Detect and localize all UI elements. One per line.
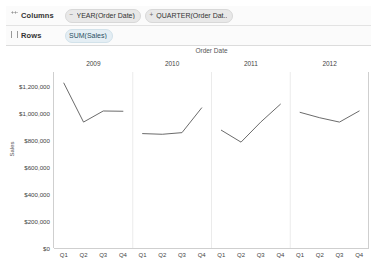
pill-label: QUARTER(Order Dat.. [156, 12, 227, 19]
plot-area [54, 72, 369, 248]
quarter-tick-label[interactable]: Q4 [113, 249, 133, 261]
line-chart-svg [54, 72, 369, 248]
pill-year-order-date[interactable]: − YEAR(Order Date) [65, 9, 141, 23]
quarter-group-2009: Q1Q2Q3Q4 [54, 249, 133, 261]
quarter-tick-label[interactable]: Q1 [54, 249, 74, 261]
rows-shelf-label: Rows [21, 31, 65, 40]
year-header[interactable]: 2009 [54, 58, 133, 70]
year-header[interactable]: 2010 [133, 58, 212, 70]
quarter-tick-label[interactable]: Q3 [93, 249, 113, 261]
sales-line-2012[interactable] [300, 111, 359, 122]
quarter-tick-label[interactable]: Q2 [231, 249, 251, 261]
quarter-tick-label[interactable]: Q3 [330, 249, 350, 261]
quarter-group-2012: Q1Q2Q3Q4 [290, 249, 369, 261]
sales-line-2009[interactable] [64, 83, 123, 122]
pill-label: SUM(Sales) [69, 32, 107, 39]
y-axis-tick-label: $800,000 [24, 136, 50, 143]
y-axis-tick-label: $200,000 [24, 217, 50, 224]
quarter-tick-label[interactable]: Q2 [310, 249, 330, 261]
columns-shelf[interactable]: Columns − YEAR(Order Date) + QUARTER(Ord… [6, 6, 371, 26]
plus-icon[interactable]: + [149, 12, 154, 19]
y-axis-title: Sales [9, 129, 15, 169]
quarter-tick-label[interactable]: Q1 [133, 249, 153, 261]
y-axis[interactable]: Sales $1,200,000$1,000,000$800,000$600,0… [6, 72, 54, 248]
y-axis-tick-label: $1,200,000 [19, 82, 50, 89]
pill-label: YEAR(Order Date) [77, 12, 135, 19]
quarter-tick-label[interactable]: Q3 [172, 249, 192, 261]
quarter-group-2010: Q1Q2Q3Q4 [133, 249, 212, 261]
pill-quarter-order-date[interactable]: + QUARTER(Order Dat.. [145, 9, 234, 23]
y-axis-tick-label: $400,000 [24, 190, 50, 197]
quarter-tick-label[interactable]: Q4 [349, 249, 369, 261]
shelf-area: Columns − YEAR(Order Date) + QUARTER(Ord… [6, 6, 371, 44]
drag-bars-icon[interactable] [10, 31, 19, 40]
drag-dots-icon[interactable] [10, 11, 19, 20]
columns-shelf-label: Columns [21, 11, 65, 20]
year-header-row: 2009 2010 2011 2012 [54, 58, 369, 70]
quarter-tick-label[interactable]: Q3 [251, 249, 271, 261]
quarter-tick-label[interactable]: Q1 [290, 249, 310, 261]
quarter-tick-label[interactable]: Q1 [212, 249, 232, 261]
quarter-tick-label[interactable]: Q2 [74, 249, 94, 261]
y-axis-tick-label: $600,000 [24, 163, 50, 170]
y-axis-tick-label: $1,000,000 [19, 109, 50, 116]
rows-shelf-fields: SUM(Sales) [65, 29, 371, 43]
quarter-tick-label[interactable]: Q4 [192, 249, 212, 261]
quarter-tick-label[interactable]: Q2 [152, 249, 172, 261]
chart-canvas: Order Date 2009 2010 2011 2012 Sales $1,… [6, 46, 371, 274]
sales-line-2011[interactable] [221, 104, 280, 142]
sales-line-2010[interactable] [143, 108, 202, 134]
y-axis-tick-label: $0 [43, 245, 50, 252]
quarter-label-row: Q1Q2Q3Q4Q1Q2Q3Q4Q1Q2Q3Q4Q1Q2Q3Q4 [54, 249, 369, 261]
year-header[interactable]: 2012 [290, 58, 369, 70]
rows-shelf[interactable]: Rows SUM(Sales) [6, 26, 371, 46]
minus-icon[interactable]: − [69, 12, 74, 19]
column-axis-title: Order Date [54, 47, 369, 54]
pill-sum-sales[interactable]: SUM(Sales) [65, 29, 113, 43]
quarter-tick-label[interactable]: Q4 [271, 249, 291, 261]
year-header[interactable]: 2011 [212, 58, 291, 70]
tableau-viz-window: Columns − YEAR(Order Date) + QUARTER(Ord… [0, 0, 377, 279]
columns-shelf-fields: − YEAR(Order Date) + QUARTER(Order Dat.. [65, 9, 371, 23]
quarter-group-2011: Q1Q2Q3Q4 [212, 249, 291, 261]
